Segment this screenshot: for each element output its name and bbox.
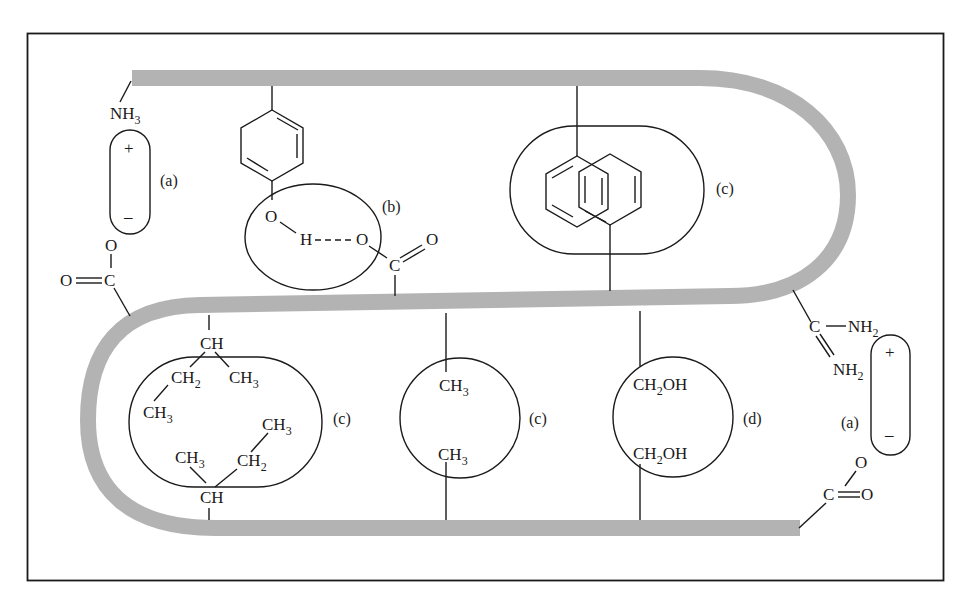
hydrophobic-interaction-methyl: CH3 CH3 (c) — [400, 313, 547, 520]
label-c-methyl: (c) — [529, 410, 547, 428]
svg-text:CH3: CH3 — [229, 368, 259, 391]
interaction-envelope-c-aromatic — [510, 126, 704, 254]
nh3-group: NH — [110, 104, 135, 123]
hydrophobic-interaction-branched: CH CH2 CH3 CH3 CH3 CH3 CH2 CH (c) — [129, 315, 351, 520]
svg-text:CH2: CH2 — [237, 451, 267, 474]
aromatic-stacking-interaction: (c) — [510, 86, 734, 291]
svg-text:NH3: NH3 — [110, 104, 141, 127]
plus-sign: + — [124, 139, 134, 158]
guanidino-c: C — [809, 317, 820, 336]
label-c-branched: (c) — [333, 410, 351, 428]
protein-folding-diagram: NH3 + – (a) O C O (b) O H O C O — [0, 0, 971, 608]
svg-text:CH3: CH3 — [439, 376, 469, 399]
acceptor-o: O — [356, 230, 368, 249]
carboxyl-c-right: C — [823, 485, 834, 504]
carboxyl-o-right: O — [855, 453, 867, 472]
svg-text:NH2: NH2 — [848, 317, 879, 340]
carboxyl-o: O — [105, 236, 117, 255]
ionic-interaction-right: C NH2 NH2 + – (a) O C O — [793, 290, 910, 528]
carboxyl-double-o: O — [60, 271, 72, 290]
ionic-interaction-top-left: NH3 + – (a) O C O — [60, 81, 178, 316]
svg-text:NH2: NH2 — [833, 360, 864, 383]
hydrogen-h: H — [300, 230, 312, 249]
label-d: (d) — [743, 410, 762, 428]
hydrogen-bond-interaction: (b) O H O C O — [241, 86, 438, 296]
label-a-left: (a) — [160, 172, 178, 190]
svg-text:CH2OH: CH2OH — [633, 444, 687, 467]
carboxyl-c-b: C — [389, 256, 400, 275]
hydrogen-bond-interaction-hydroxyl: CH2OH CH2OH (d) — [613, 311, 762, 520]
svg-text:CH3: CH3 — [438, 445, 468, 468]
interaction-envelope-c-branched — [129, 357, 322, 487]
svg-text:CH3: CH3 — [143, 403, 173, 426]
label-a-right: (a) — [841, 414, 859, 432]
carboxyl-c: C — [104, 271, 115, 290]
nh2-top: NH — [848, 317, 873, 336]
label-c-aromatic: (c) — [716, 180, 734, 198]
svg-text:CH2OH: CH2OH — [633, 375, 687, 398]
carboxyl-o-b: O — [426, 230, 438, 249]
minus-sign: – — [123, 207, 133, 226]
minus-sign-right: – — [884, 425, 894, 444]
carboxyl-double-o-right: O — [861, 485, 873, 504]
svg-text:CH2: CH2 — [171, 368, 201, 391]
nh2-bottom: NH — [833, 360, 858, 379]
phenol-o: O — [265, 207, 277, 226]
plus-sign-right: + — [885, 343, 895, 362]
top-ch: CH — [200, 334, 224, 353]
label-b: (b) — [382, 198, 401, 216]
bottom-ch: CH — [200, 488, 224, 507]
